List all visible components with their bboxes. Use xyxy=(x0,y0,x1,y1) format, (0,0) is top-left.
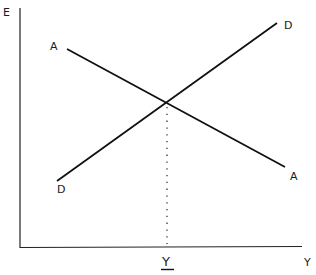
y-axis-label: E xyxy=(3,6,10,19)
equilibrium-label: Y xyxy=(161,254,170,269)
diagram-canvas: E Y A A D D Y xyxy=(0,0,316,275)
line-a-start-label: A xyxy=(50,40,58,53)
horizontal-axis xyxy=(20,247,302,248)
line-a-end-label: A xyxy=(290,170,298,183)
line-d-start-label: D xyxy=(57,183,65,196)
x-axis-label: Y xyxy=(303,256,311,269)
line-d xyxy=(57,23,277,181)
line-d-end-label: D xyxy=(284,19,292,32)
